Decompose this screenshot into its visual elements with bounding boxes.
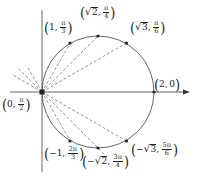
paren-open: ( — [44, 146, 49, 161]
polar-circle-diagram: ( 1, π3 ) ( √2, π4 ) ( √3, π6 ) ( 2, 0 )… — [0, 0, 199, 178]
denominator: 4 — [115, 162, 121, 169]
paren-close: ) — [173, 142, 178, 157]
label-neg1-2pi3: ( −1, 2π3 ) — [44, 146, 84, 160]
minus-sign: − — [136, 145, 144, 154]
point-1-pi3 — [68, 41, 71, 44]
theta-fraction: π3 — [60, 20, 66, 34]
ray-ext-3pi4 — [17, 67, 42, 92]
point-negsqrt2-3pi4 — [96, 146, 99, 149]
label-1-pi3: ( 1, π3 ) — [44, 20, 73, 34]
sqrt-expression: √3 — [144, 144, 157, 154]
label-sqrt3-pi6: ( √3, π6 ) — [130, 20, 165, 34]
point-neg1-2pi3 — [68, 139, 71, 142]
theta-fraction: 2π3 — [68, 146, 78, 160]
theta-fraction: 3π4 — [113, 154, 123, 168]
paren-close: ) — [67, 20, 72, 35]
paren-close: ) — [110, 5, 115, 20]
theta-fraction: π2 — [18, 97, 24, 111]
denominator: 6 — [153, 28, 159, 35]
label-origin-0-pi2: ( 0, π2 ) — [2, 97, 31, 111]
point-origin — [40, 90, 45, 95]
minus-sign: − — [87, 157, 95, 166]
point-negsqrt3-5pi6 — [125, 139, 128, 142]
paren-close: ) — [175, 77, 180, 92]
denominator: 4 — [103, 13, 109, 20]
label-sqrt2-pi4: ( √2, π4 ) — [80, 5, 115, 19]
point-sqrt3-pi6 — [125, 41, 128, 44]
minus-sign: − — [49, 149, 57, 158]
paren-open: ( — [2, 97, 7, 112]
comma: , — [156, 145, 159, 154]
ray-5pi6 — [42, 92, 127, 141]
point-sqrt2-pi4 — [96, 34, 99, 37]
paren-open: ( — [131, 142, 136, 157]
paren-open: ( — [154, 77, 159, 92]
comma: , — [148, 23, 151, 32]
theta-fraction: π6 — [153, 20, 159, 34]
ray-pi3 — [42, 44, 70, 93]
theta-fraction: 5π6 — [162, 142, 172, 156]
sqrt-expression: √3 — [135, 22, 148, 32]
label-negsqrt2-3pi4: ( −√2, 3π4 ) — [82, 154, 129, 168]
label-2-0: ( 2, 0 ) — [154, 78, 180, 91]
axis-arrow-icon — [183, 90, 190, 95]
paren-open: ( — [80, 5, 85, 20]
denominator: 2 — [18, 105, 24, 112]
paren-close: ) — [25, 97, 30, 112]
paren-open: ( — [44, 20, 49, 35]
comma: , — [62, 149, 65, 158]
paren-open: ( — [130, 20, 135, 35]
comma: , — [13, 100, 16, 109]
sqrt-expression: √2 — [85, 7, 98, 17]
label-negsqrt3-5pi6: ( −√3, 5π6 ) — [131, 142, 178, 156]
comma: , — [55, 23, 58, 32]
comma: , — [98, 8, 101, 17]
paren-close: ) — [160, 20, 165, 35]
comma: , — [107, 157, 110, 166]
paren-close: ) — [124, 154, 129, 169]
denominator: 3 — [70, 154, 76, 161]
paren-open: ( — [82, 154, 87, 169]
sqrt-expression: √2 — [95, 156, 108, 166]
denominator: 6 — [164, 150, 170, 157]
comma: , — [165, 80, 168, 89]
theta-fraction: π4 — [103, 5, 109, 19]
ray-pi6 — [42, 43, 127, 92]
ray-2pi3 — [42, 92, 70, 141]
denominator: 3 — [60, 28, 66, 35]
